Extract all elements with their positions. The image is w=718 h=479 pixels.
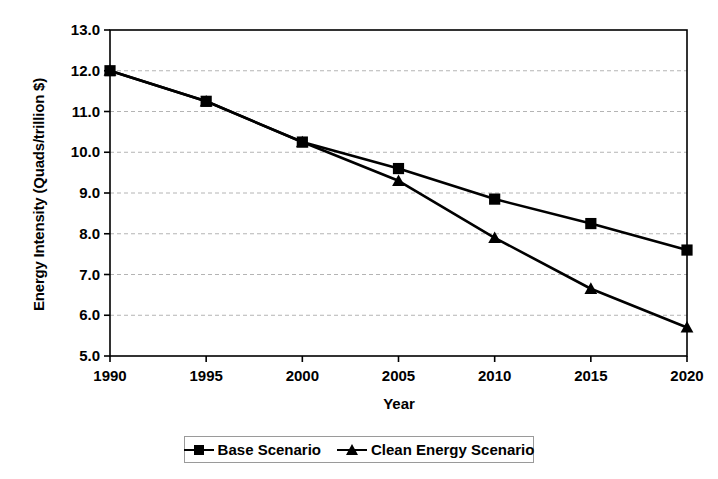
x-tick-label: 2000 — [267, 368, 337, 383]
y-tick-label: 11.0 — [38, 104, 100, 119]
y-tick-label: 6.0 — [38, 307, 100, 322]
chart-legend: Base Scenario Clean Energy Scenario — [184, 436, 534, 463]
triangle-marker-icon — [337, 443, 367, 457]
square-marker-icon — [184, 443, 214, 457]
legend-item-clean-energy-scenario: Clean Energy Scenario — [337, 441, 534, 458]
data-point-square — [489, 194, 500, 205]
series-line-2 — [110, 71, 687, 328]
data-point-square — [681, 244, 692, 255]
y-tick-label: 9.0 — [38, 185, 100, 200]
legend-label-base-scenario: Base Scenario — [218, 441, 321, 458]
x-tick-label: 2010 — [460, 368, 530, 383]
data-point-square — [585, 218, 596, 229]
x-tick-label: 2005 — [364, 368, 434, 383]
legend-label-clean-energy-scenario: Clean Energy Scenario — [371, 441, 534, 458]
legend-item-base-scenario: Base Scenario — [184, 441, 321, 458]
y-tick-label: 13.0 — [38, 22, 100, 37]
y-tick-label: 7.0 — [38, 267, 100, 282]
data-point-square — [393, 163, 404, 174]
x-tick-label: 2015 — [556, 368, 626, 383]
x-tick-label: 2020 — [652, 368, 718, 383]
data-point-triangle — [488, 231, 501, 243]
y-tick-label: 8.0 — [38, 226, 100, 241]
y-tick-label: 10.0 — [38, 144, 100, 159]
energy-intensity-line-chart: Energy Intensity (Quads/trillion $) Year… — [0, 0, 718, 479]
y-tick-label: 5.0 — [38, 348, 100, 363]
data-point-triangle — [584, 282, 597, 294]
x-tick-label: 1995 — [171, 368, 241, 383]
y-tick-label: 12.0 — [38, 63, 100, 78]
x-axis-title: Year — [110, 395, 688, 412]
x-tick-label: 1990 — [75, 368, 145, 383]
